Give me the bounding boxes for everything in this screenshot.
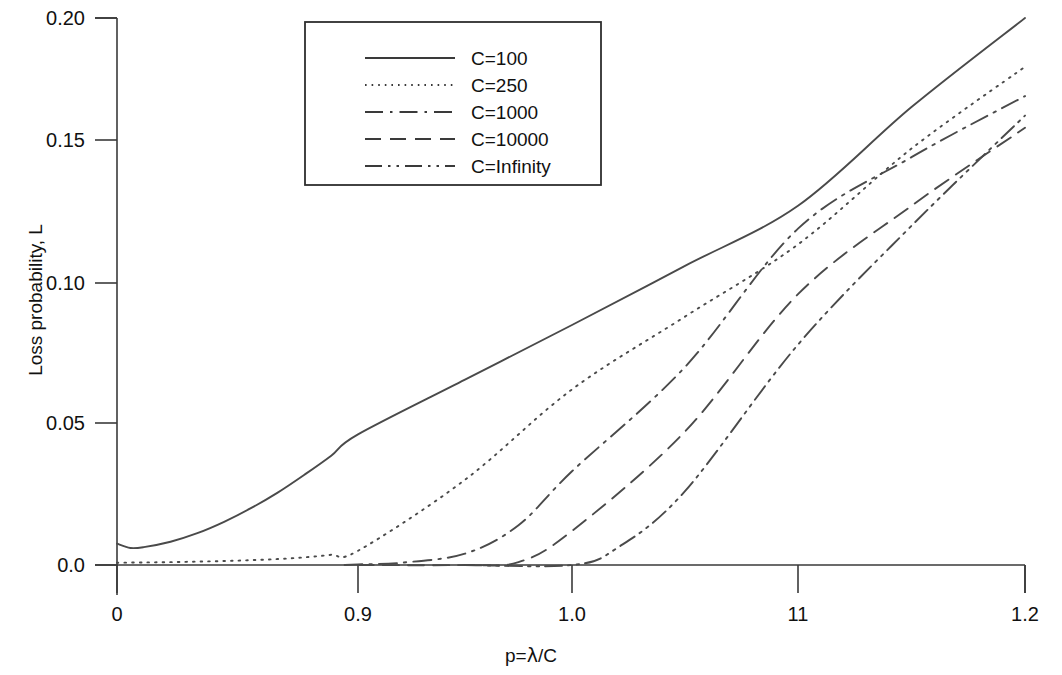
x-axis-tick-labels: 00.91.0111.2: [111, 603, 1038, 625]
series-line: [358, 128, 1025, 566]
legend: C=100C=250C=1000C=10000C=Infinity: [305, 22, 601, 185]
x-axis-title: p=λ/C: [505, 644, 557, 666]
y-tick-label: 0.0: [57, 554, 85, 576]
x-tick-label: 0: [111, 603, 122, 625]
y-tick-label: 0.10: [46, 272, 85, 294]
y-tick-label: 0.15: [46, 129, 85, 151]
y-tick-label: 0.20: [46, 7, 85, 29]
legend-box: [305, 22, 601, 185]
legend-label: C=1000: [471, 102, 538, 123]
x-tick-label: 1.2: [1011, 603, 1039, 625]
x-axis-title-group: p=λ/C: [505, 644, 557, 666]
legend-label: C=Infinity: [471, 156, 551, 177]
legend-label: C=10000: [471, 129, 549, 150]
x-tick-label: 1.0: [558, 603, 586, 625]
x-tick-label: 11: [788, 603, 809, 625]
x-axis-ticks: [117, 565, 1025, 593]
x-axis: 00.91.0111.2: [95, 565, 1039, 625]
y-axis-title: Loss probability, L: [25, 224, 46, 376]
legend-label: C=250: [471, 75, 528, 96]
loss-probability-chart: 0.00.050.100.150.20 00.91.0111.2 Loss pr…: [0, 0, 1062, 675]
legend-label: C=100: [471, 48, 528, 69]
chart-canvas: 0.00.050.100.150.20 00.91.0111.2 Loss pr…: [0, 0, 1062, 675]
y-axis-tick-labels: 0.00.050.100.150.20: [46, 7, 85, 576]
x-tick-label: 0.9: [344, 603, 372, 625]
y-tick-label: 0.05: [46, 412, 85, 434]
